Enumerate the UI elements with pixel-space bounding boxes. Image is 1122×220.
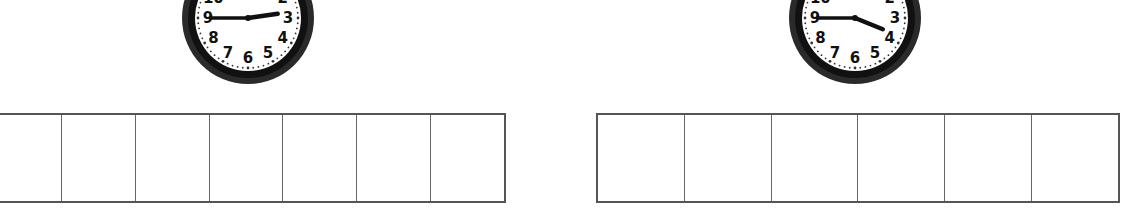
clock-numeral: 5 bbox=[263, 44, 273, 62]
answer-cell[interactable] bbox=[62, 115, 136, 201]
clock-numeral: 4 bbox=[884, 29, 894, 47]
clock-numeral: 7 bbox=[830, 44, 840, 62]
clock-numeral: 3 bbox=[283, 9, 293, 27]
clock-icon-right: 121234567891011 bbox=[787, 0, 923, 86]
clock-icon-left: 121234567891011 bbox=[180, 0, 316, 86]
clock-numeral: 3 bbox=[890, 9, 900, 27]
clock-numeral: 6 bbox=[850, 49, 860, 67]
answer-cell[interactable] bbox=[357, 115, 431, 201]
clock-numeral: 2 bbox=[884, 0, 894, 7]
answer-grid-left bbox=[0, 113, 506, 203]
clock-numeral: 8 bbox=[208, 29, 218, 47]
answer-cell[interactable] bbox=[283, 115, 357, 201]
answer-cell[interactable] bbox=[0, 115, 62, 201]
clock-numeral: 6 bbox=[243, 49, 253, 67]
clock-numeral: 8 bbox=[815, 29, 825, 47]
answer-cell[interactable] bbox=[945, 115, 1032, 201]
clock-numeral: 2 bbox=[277, 0, 287, 7]
clock-numeral: 10 bbox=[810, 0, 831, 7]
answer-cell[interactable] bbox=[858, 115, 945, 201]
clock-numeral: 4 bbox=[277, 29, 287, 47]
answer-cell[interactable] bbox=[1032, 115, 1118, 201]
clock-numeral: 5 bbox=[870, 44, 880, 62]
answer-cell[interactable] bbox=[136, 115, 210, 201]
clock-numeral: 7 bbox=[223, 44, 233, 62]
answer-cell[interactable] bbox=[772, 115, 859, 201]
answer-cell[interactable] bbox=[685, 115, 772, 201]
answer-cell[interactable] bbox=[598, 115, 685, 201]
answer-cell[interactable] bbox=[210, 115, 284, 201]
answer-grid-right bbox=[596, 113, 1120, 203]
answer-cell[interactable] bbox=[431, 115, 504, 201]
clock-numeral: 10 bbox=[203, 0, 224, 7]
